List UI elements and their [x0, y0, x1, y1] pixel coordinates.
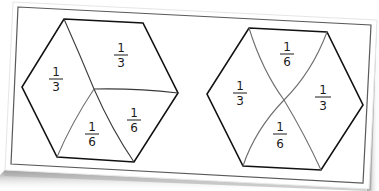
svg-text:1: 1	[130, 106, 138, 120]
svg-text:1: 1	[88, 120, 96, 134]
fraction-hexagons-figure: 1 3 1 3 1 6 1 6 1 6 1	[0, 0, 379, 191]
svg-text:3: 3	[52, 80, 60, 94]
svg-text:1: 1	[236, 79, 244, 93]
svg-text:1: 1	[319, 83, 327, 97]
svg-text:1: 1	[276, 120, 284, 134]
svg-text:1: 1	[52, 65, 60, 79]
svg-text:1: 1	[283, 40, 291, 54]
svg-text:6: 6	[283, 55, 291, 69]
svg-text:1: 1	[117, 41, 125, 55]
svg-text:3: 3	[319, 99, 327, 113]
svg-text:6: 6	[276, 137, 284, 151]
svg-text:6: 6	[88, 135, 96, 149]
svg-text:3: 3	[117, 56, 125, 70]
svg-text:3: 3	[236, 94, 244, 108]
svg-text:6: 6	[130, 121, 138, 135]
